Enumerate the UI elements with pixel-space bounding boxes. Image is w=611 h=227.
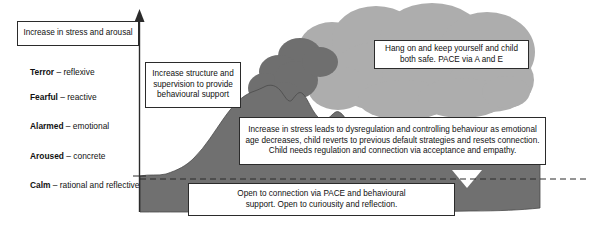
- state-label-alarmed: Alarmed – emotional: [30, 121, 109, 131]
- callout-hang-on: Hang on and keep yourself and child both…: [374, 40, 529, 69]
- state-label-calm: Calm – rational and reflective: [30, 180, 139, 190]
- callout-line: age decreases, child reverts to previous…: [245, 136, 539, 147]
- diagram-canvas: Terror – reflexive Fearful – reactive Al…: [0, 0, 611, 227]
- state-label-aroused: Aroused – concrete: [30, 151, 105, 161]
- state-descriptor: rational and reflective: [60, 180, 140, 190]
- state-dash: –: [56, 67, 61, 77]
- state-dash: –: [66, 121, 71, 131]
- state-name: Calm: [30, 180, 50, 190]
- callout-increase-structure: Increase structure and supervision to pr…: [145, 62, 241, 108]
- state-label-fearful: Fearful – reactive: [30, 92, 97, 102]
- state-descriptor: emotional: [73, 121, 109, 131]
- callout-line: Child needs regulation and connection vi…: [269, 146, 516, 157]
- state-descriptor: reactive: [67, 92, 96, 102]
- callout-line: supervision to provide: [153, 80, 233, 91]
- callout-dysregulation: Increase in stress leads to dysregulatio…: [239, 117, 546, 165]
- callout-line: Increase in stress leads to dysregulatio…: [248, 125, 537, 136]
- axis-caption-box: Increase in stress and arousal: [17, 21, 139, 46]
- state-descriptor: reflexive: [63, 67, 94, 77]
- callout-line: both safe. PACE via A and E: [400, 55, 503, 66]
- state-name: Fearful: [30, 92, 58, 102]
- callout-line: support. Open to curiousity and reflecti…: [246, 200, 398, 211]
- state-name: Alarmed: [30, 121, 64, 131]
- state-label-terror: Terror – reflexive: [30, 67, 95, 77]
- state-name: Aroused: [30, 151, 64, 161]
- callout-line: behavioural support: [157, 90, 229, 101]
- axis-caption-text: Increase in stress and arousal: [23, 28, 132, 39]
- callout-line: Increase structure and: [152, 69, 233, 80]
- state-name: Terror: [30, 67, 54, 77]
- state-dash: –: [53, 180, 58, 190]
- state-descriptor: concrete: [73, 151, 105, 161]
- callout-line: Open to connection via PACE and behaviou…: [237, 189, 405, 200]
- state-dash: –: [66, 151, 71, 161]
- callout-open-to-connection: Open to connection via PACE and behaviou…: [188, 183, 455, 216]
- callout-line: Hang on and keep yourself and child: [385, 44, 518, 55]
- state-dash: –: [60, 92, 65, 102]
